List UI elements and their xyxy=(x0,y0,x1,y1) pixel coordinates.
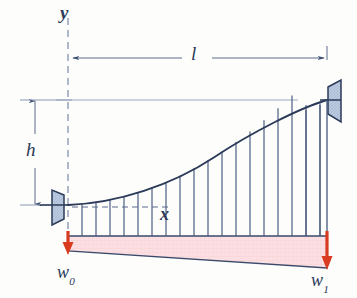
hanger-lines-right-correction xyxy=(298,60,328,236)
left-support-bracket xyxy=(40,190,68,225)
label-load-right: w1 xyxy=(311,271,329,293)
label-load-left-base: w xyxy=(57,262,69,282)
diagram-canvas xyxy=(0,0,357,298)
label-height: h xyxy=(26,140,36,159)
span-dimension-l xyxy=(73,46,327,72)
label-load-right-subscript: 1 xyxy=(323,283,329,295)
label-span-length: l xyxy=(191,44,196,63)
catenary-curve xyxy=(68,100,327,205)
catenary-diagram-figure: y l h x w0 w1 xyxy=(0,0,357,298)
label-load-left-subscript: 0 xyxy=(69,275,75,287)
label-load-right-base: w xyxy=(311,270,323,290)
label-load-left: w0 xyxy=(57,263,75,285)
distributed-load-block xyxy=(68,236,327,268)
label-horizontal-coordinate: x xyxy=(160,205,169,223)
label-y-axis: y xyxy=(60,3,68,22)
